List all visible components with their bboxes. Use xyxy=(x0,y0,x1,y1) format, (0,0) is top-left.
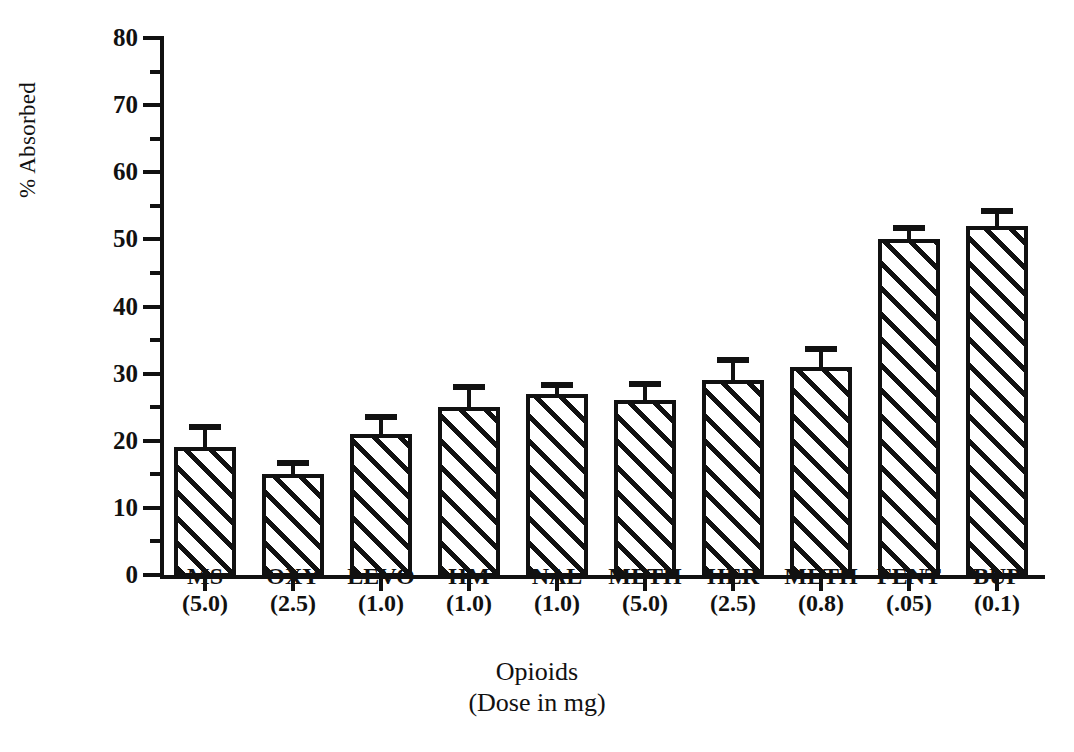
x-tick-label-name: HM xyxy=(448,563,489,589)
y-tick-major xyxy=(143,506,160,510)
y-tick-minor xyxy=(150,338,160,342)
y-tick-minor xyxy=(150,271,160,275)
x-tick-label-dose: (1.0) xyxy=(513,590,601,617)
y-tick-minor xyxy=(150,539,160,543)
x-axis-title-main: Opioids xyxy=(496,657,578,686)
y-tick-major xyxy=(143,170,160,174)
bar xyxy=(174,447,236,577)
x-axis-title-sub: (Dose in mg) xyxy=(0,687,1074,718)
x-tick-label-name: FENT xyxy=(877,563,941,589)
x-tick-label-name: NAL xyxy=(532,563,583,589)
y-tick-major xyxy=(143,305,160,309)
error-bar-cap xyxy=(365,414,397,420)
y-axis-title: % Absorbed xyxy=(8,0,48,280)
bar xyxy=(438,407,500,577)
y-tick-minor xyxy=(150,70,160,74)
error-bar-stem xyxy=(467,387,471,407)
x-tick-label: NAL(1.0) xyxy=(513,563,601,617)
bar-chart-figure: % Absorbed 01020304050607080 MS(5.0)OXY(… xyxy=(0,0,1074,752)
error-bar-stem xyxy=(731,360,735,380)
x-tick-label: MS(5.0) xyxy=(161,563,249,617)
y-tick-minor xyxy=(150,137,160,141)
bar xyxy=(526,394,588,577)
y-tick-minor xyxy=(150,472,160,476)
bar xyxy=(878,239,940,577)
error-bar-cap xyxy=(805,346,837,352)
x-tick-label-name: HER xyxy=(707,563,759,589)
x-axis-title: Opioids (Dose in mg) xyxy=(0,656,1074,718)
x-tick-label-dose: (.05) xyxy=(865,590,953,617)
x-tick-label-dose: (5.0) xyxy=(161,590,249,617)
x-tick-label-dose: (1.0) xyxy=(337,590,425,617)
error-bar-stem xyxy=(203,427,207,447)
y-tick-major xyxy=(143,103,160,107)
x-tick-label: HM(1.0) xyxy=(425,563,513,617)
y-tick-major xyxy=(143,36,160,40)
y-tick-major xyxy=(143,439,160,443)
error-bar-cap xyxy=(453,384,485,390)
y-tick-major xyxy=(143,237,160,241)
x-tick-label: LEVO(1.0) xyxy=(337,563,425,617)
x-tick-label-name: LEVO xyxy=(347,563,415,589)
x-tick-label: BUP(0.1) xyxy=(953,563,1041,617)
x-tick-label: METH(5.0) xyxy=(601,563,689,617)
error-bar-cap xyxy=(277,460,309,466)
x-tick-label-dose: (2.5) xyxy=(689,590,777,617)
bar xyxy=(790,367,852,577)
x-tick-label-name: BUP xyxy=(973,563,1021,589)
x-tick-label: OXY(2.5) xyxy=(249,563,337,617)
y-tick-major xyxy=(143,372,160,376)
error-bar-cap xyxy=(629,381,661,387)
error-bar-cap xyxy=(717,357,749,363)
x-tick-label: FENT(.05) xyxy=(865,563,953,617)
plot-area: 01020304050607080 xyxy=(164,38,1045,575)
x-tick-label-name: OXY xyxy=(266,563,319,589)
error-bar-cap xyxy=(981,208,1013,214)
x-tick-label-name: METH xyxy=(608,563,681,589)
error-bar-cap xyxy=(893,225,925,231)
x-tick-label-name: METH xyxy=(784,563,857,589)
y-axis-line xyxy=(160,36,164,577)
bar xyxy=(966,226,1028,577)
x-tick-label-name: MS xyxy=(187,563,223,589)
bar xyxy=(262,474,324,577)
x-tick-label-dose: (5.0) xyxy=(601,590,689,617)
x-tick-label: METH(0.8) xyxy=(777,563,865,617)
y-tick-minor xyxy=(150,405,160,409)
y-tick-minor xyxy=(150,204,160,208)
x-tick-label-dose: (0.1) xyxy=(953,590,1041,617)
bar xyxy=(350,434,412,577)
x-tick-label: HER(2.5) xyxy=(689,563,777,617)
y-tick-major xyxy=(143,573,160,577)
error-bar-cap xyxy=(189,424,221,430)
error-bar-cap xyxy=(541,382,573,388)
bar xyxy=(702,380,764,577)
x-tick-label-dose: (0.8) xyxy=(777,590,865,617)
bar xyxy=(614,400,676,577)
x-tick-label-dose: (2.5) xyxy=(249,590,337,617)
x-tick-label-dose: (1.0) xyxy=(425,590,513,617)
